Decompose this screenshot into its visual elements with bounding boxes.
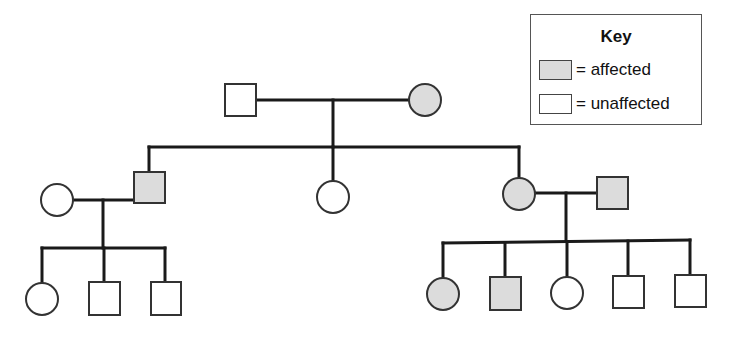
generation-3-right	[427, 240, 706, 310]
male-affected-II-5	[597, 177, 628, 209]
female-unaffected-II-3	[317, 181, 349, 213]
male-unaffected-I-1	[225, 84, 256, 116]
key-label-affected: = affected	[576, 60, 651, 80]
male-affected-II-2	[134, 172, 165, 203]
key-title: Key	[531, 27, 701, 47]
male-unaffected-III-8	[675, 275, 706, 307]
unaffected-swatch	[539, 94, 572, 114]
female-affected-I-2	[409, 84, 441, 116]
female-unaffected-III-1	[26, 283, 58, 315]
generation-1	[225, 84, 441, 147]
generation-3-left	[26, 248, 181, 315]
generation-2	[41, 147, 628, 248]
key-label-unaffected: = unaffected	[576, 94, 670, 114]
male-unaffected-III-7	[613, 276, 644, 308]
male-affected-III-5	[490, 277, 521, 310]
female-affected-II-4	[503, 178, 535, 210]
female-unaffected-III-6	[551, 277, 583, 309]
female-unaffected-II-1	[41, 184, 73, 216]
key-row-affected: = affected	[539, 60, 651, 80]
male-unaffected-III-2	[89, 282, 120, 315]
affected-swatch	[539, 60, 572, 80]
key-row-unaffected: = unaffected	[539, 94, 670, 114]
key-legend: Key = affected = unaffected	[530, 14, 702, 125]
male-unaffected-III-3	[151, 282, 181, 315]
female-affected-III-4	[427, 278, 459, 310]
